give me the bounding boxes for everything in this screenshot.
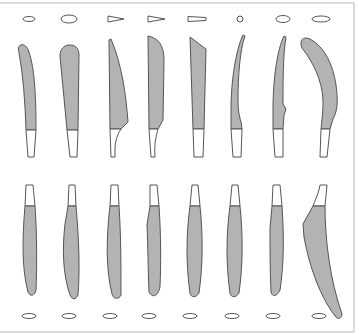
blade-b4 xyxy=(147,185,161,296)
blade-t8-head xyxy=(301,38,337,129)
blade-t1-stem xyxy=(26,130,36,157)
blade-b5-head xyxy=(187,206,202,297)
cross-section-wide-ellipse-icon xyxy=(312,16,330,22)
bottom-cross-sections xyxy=(22,314,326,319)
blade-b7 xyxy=(270,185,283,296)
cross-section-triangle-icon xyxy=(148,16,165,22)
blade-t2-head xyxy=(60,45,79,130)
blade-t1 xyxy=(18,45,36,157)
blade-t3 xyxy=(109,39,128,157)
cross-section-ellipse-icon xyxy=(62,314,76,319)
blade-t7-stem xyxy=(273,129,283,157)
cross-section-ellipse-icon xyxy=(266,314,280,319)
blade-b7-stem xyxy=(272,185,282,206)
blade-t3-head xyxy=(109,39,128,129)
blade-t1-head xyxy=(18,45,36,130)
blade-b2 xyxy=(63,185,79,299)
top-cross-sections xyxy=(23,15,330,23)
blade-b6-stem xyxy=(230,185,240,206)
cross-section-ellipse-icon xyxy=(225,314,239,319)
blade-t7 xyxy=(273,36,286,157)
blade-t7-head xyxy=(273,36,286,129)
blade-t6-head xyxy=(231,35,245,129)
cross-section-ellipse-icon xyxy=(276,16,290,23)
cross-section-ellipse-icon xyxy=(312,314,326,319)
cross-section-circle-icon xyxy=(237,16,243,22)
blade-b4-stem xyxy=(150,185,159,206)
blade-b2-stem xyxy=(68,185,76,206)
blade-b1-head xyxy=(23,206,37,295)
cross-section-ellipse-icon xyxy=(103,314,117,319)
blade-b1-stem xyxy=(25,185,35,206)
blade-b2-head xyxy=(63,206,79,299)
blade-b3 xyxy=(107,185,121,298)
cross-section-ellipse-icon xyxy=(142,314,156,319)
blade-b7-head xyxy=(270,206,283,296)
blade-t5-stem xyxy=(193,129,204,157)
cross-section-triangle-icon xyxy=(108,16,124,22)
blade-t3-stem xyxy=(110,129,121,157)
cross-section-ellipse-icon xyxy=(61,15,77,23)
blade-shapes-diagram xyxy=(0,0,359,334)
blade-b5 xyxy=(187,185,202,297)
blade-b6-head xyxy=(227,206,242,297)
blade-t4-stem xyxy=(149,129,158,157)
blade-t5-head xyxy=(190,37,206,129)
blade-t2 xyxy=(60,45,79,157)
blade-t6-stem xyxy=(231,129,242,157)
blade-t4 xyxy=(148,36,164,157)
blade-b5-stem xyxy=(190,185,200,206)
frame xyxy=(0,3,354,332)
blade-t6 xyxy=(231,35,245,157)
top-blades xyxy=(18,35,337,157)
blade-t4-head xyxy=(148,36,164,129)
blade-b3-stem xyxy=(110,185,119,206)
cross-section-rectangle-icon xyxy=(188,17,206,22)
cross-section-ellipse-icon xyxy=(183,314,197,319)
cross-section-ellipse-icon xyxy=(22,314,36,319)
blade-b8-head xyxy=(303,206,342,318)
blade-t8-stem xyxy=(320,129,330,157)
bottom-blades xyxy=(23,185,342,318)
blade-b6 xyxy=(227,185,242,297)
blade-b8 xyxy=(303,185,342,318)
blade-t2-stem xyxy=(67,130,78,157)
blade-t5 xyxy=(190,37,206,157)
blade-b1 xyxy=(23,185,37,295)
blade-b3-head xyxy=(107,206,121,298)
diagram-canvas xyxy=(0,0,359,334)
blade-t8 xyxy=(301,38,337,157)
blade-b8-stem xyxy=(313,185,327,206)
cross-section-small-ellipse-icon xyxy=(23,17,35,22)
blade-b4-head xyxy=(147,206,161,296)
